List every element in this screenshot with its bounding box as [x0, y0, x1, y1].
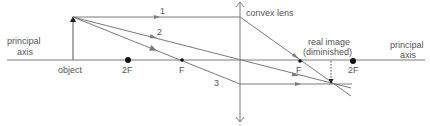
label-f-right: F — [296, 65, 302, 75]
ray-1-label: 1 — [160, 6, 165, 16]
label-f-left: F — [179, 65, 185, 75]
point-f-left — [180, 58, 184, 62]
label-2f-right: 2F — [348, 65, 359, 75]
ray-diagram: principal axis principal axis object 2F … — [0, 0, 430, 126]
principal-axis-label-right-2: axis — [400, 50, 417, 60]
object-arrow — [70, 16, 76, 60]
ray-2-label: 2 — [157, 27, 162, 37]
lens-label: convex lens — [246, 8, 294, 18]
label-2f-left: 2F — [122, 65, 133, 75]
image-label-1: real image — [308, 37, 350, 47]
principal-axis-label-right: principal — [390, 40, 424, 50]
point-2f-right — [350, 58, 356, 64]
point-2f-left — [125, 57, 131, 63]
object-label: object — [58, 65, 83, 75]
principal-axis-label-left-2: axis — [17, 47, 34, 57]
image-label-2: (diminished) — [303, 47, 352, 57]
convex-lens — [236, 2, 244, 122]
point-f-right — [298, 59, 302, 63]
principal-axis-label-left: principal — [7, 36, 41, 46]
ray-3-label: 3 — [214, 78, 219, 88]
